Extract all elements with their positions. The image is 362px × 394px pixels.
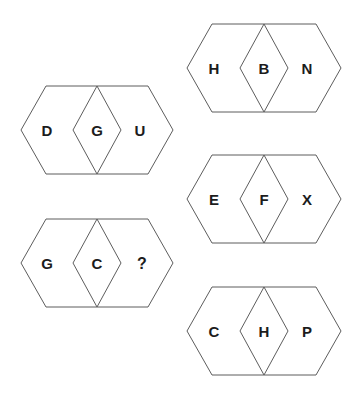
right-cell-letter: P [302,323,312,340]
puzzle-figure: EFX [187,155,341,243]
left-cell-letter: H [209,60,220,77]
puzzle-figure: GC? [21,219,173,307]
right-cell-letter: X [302,191,312,208]
puzzle-figure: DGU [21,86,173,174]
puzzle-figure: HBN [187,24,341,112]
center-cell-letter: C [92,255,103,272]
right-cell-letter: U [135,122,146,139]
center-cell-letter: H [259,323,270,340]
left-cell-letter: G [41,255,53,272]
puzzle-figures-svg: DGUGC?HBNEFXCHP [0,0,362,394]
unknown-cell-marker: ? [137,255,147,272]
right-cell-letter: N [302,60,313,77]
center-cell-letter: B [259,60,270,77]
center-cell-letter: G [91,122,103,139]
puzzle-figure: CHP [187,287,341,375]
left-cell-letter: D [42,122,53,139]
center-cell-letter: F [259,191,268,208]
left-cell-letter: C [209,323,220,340]
puzzle-canvas: DGUGC?HBNEFXCHP [0,0,362,394]
left-cell-letter: E [209,191,219,208]
